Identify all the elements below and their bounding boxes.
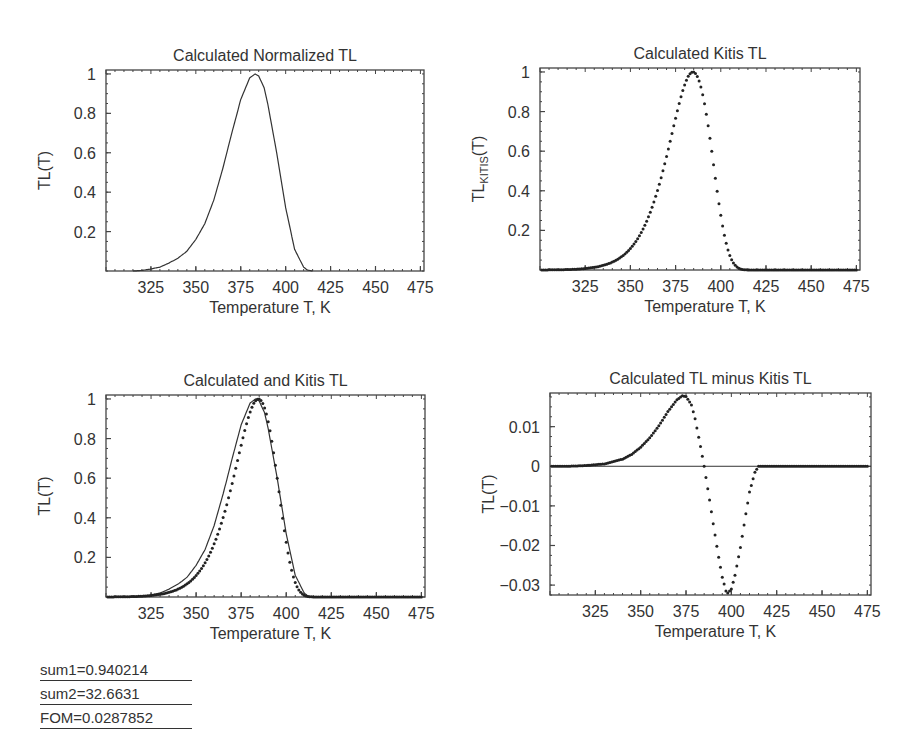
data-point [674,401,677,404]
data-point [296,585,299,588]
y-tick-label: −0.01 [500,498,541,515]
data-point [665,155,668,158]
data-point [710,510,713,513]
chart-title: Calculated and Kitis TL [183,372,347,389]
y-tick-label: 0.2 [508,222,530,239]
x-tick-label: 400 [272,279,299,296]
data-point [697,436,700,439]
data-point [645,220,648,223]
data-point [654,195,657,198]
data-point [701,93,704,96]
x-tick-label: 325 [582,603,609,620]
series-line [133,74,313,271]
series-line [133,399,313,597]
data-point [710,150,713,153]
x-axis-label: Temperature T, K [644,298,766,315]
y-tick-label: 0.2 [74,549,96,566]
x-tick-label: 400 [273,605,300,622]
y-axis-label: TL(T) [36,151,53,190]
y-tick-label: 0.8 [508,104,530,121]
data-point [704,476,707,479]
data-point [218,527,221,530]
y-axis-label: TL(T) [480,474,497,513]
data-point [281,517,284,520]
chart-tl: Calculated Normalized TL3253503754004254… [36,47,434,316]
data-point [202,564,205,567]
data-point [236,459,239,462]
data-point [670,132,673,135]
data-point [652,432,655,435]
data-point [670,405,673,408]
data-point [730,588,733,591]
data-point [638,234,641,237]
y-tick-label: 1 [87,66,96,83]
data-point [696,75,699,78]
data-point [200,567,203,570]
x-tick-label: 475 [408,605,435,622]
y-tick-label: 0.01 [509,419,540,436]
data-point [283,529,286,532]
data-point [855,269,858,272]
data-point [636,237,639,240]
data-point [225,503,228,506]
data-point [719,566,722,569]
data-point [207,555,210,558]
data-point [733,574,736,577]
data-point [241,436,244,439]
x-tick-label: 475 [843,278,870,295]
data-point [732,261,735,264]
data-point [665,413,668,416]
x-axis-label: Temperature T, K [655,623,777,640]
data-point [658,183,661,186]
data-point [656,189,659,192]
data-point [692,410,695,413]
data-point [252,402,255,405]
data-point [205,558,208,561]
data-point [656,427,659,430]
plot-frame [106,395,425,597]
data-point [652,200,655,203]
data-point [648,436,651,439]
y-tick-label: 0.2 [74,224,96,241]
data-point [263,406,266,409]
x-tick-label: 400 [718,603,745,620]
x-tick-label: 375 [228,605,255,622]
data-point [633,243,636,246]
x-tick-label: 350 [182,279,209,296]
data-point [676,109,679,112]
chart-title: Calculated TL minus Kitis TL [609,370,812,387]
plot-frame [550,393,871,595]
data-point [737,555,740,558]
data-point [753,471,756,474]
data-point [672,403,675,406]
x-tick-label: 375 [662,278,689,295]
data-point [678,102,681,105]
data-point [687,75,690,78]
data-point [685,79,688,82]
data-point [714,177,717,180]
data-point [222,516,225,519]
plots-canvas: Calculated Normalized TL3253503754004254… [0,0,920,735]
y-tick-label: 1 [87,391,96,408]
data-point [259,399,262,402]
data-point [663,162,666,165]
data-point [659,422,662,425]
data-point [672,124,675,127]
sum2-value: sum2=32.6631 [40,684,192,705]
data-point [420,596,423,599]
data-point [686,398,689,401]
x-axis-label: Temperature T, K [209,299,331,316]
data-point [279,504,282,507]
data-point [204,561,207,564]
y-tick-label: 0.6 [74,145,96,162]
y-axis-label: TLKITIS(T) [470,136,490,203]
data-point [287,551,290,554]
data-point [717,556,720,559]
y-tick-label: 0.6 [74,470,96,487]
x-tick-label: 400 [707,278,734,295]
data-point [723,583,726,586]
data-point [651,206,654,209]
data-point [668,408,671,411]
data-point [654,429,657,432]
x-axis-label: Temperature T, K [210,625,332,642]
